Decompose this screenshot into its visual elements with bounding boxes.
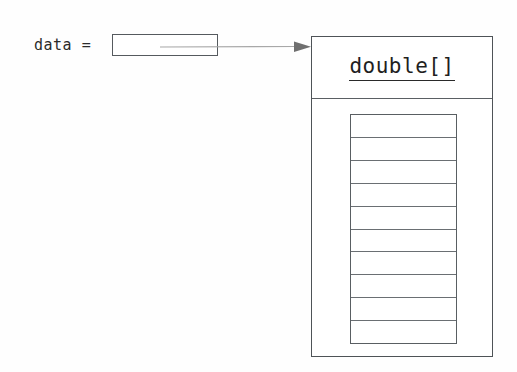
array-cell — [351, 138, 456, 161]
array-cell — [351, 252, 456, 275]
arrow-right-icon — [160, 39, 312, 55]
array-cell — [351, 298, 456, 321]
array-cell — [351, 115, 456, 138]
pointer-line — [160, 47, 296, 48]
diagram-canvas: data = double[] — [0, 0, 517, 372]
array-cell — [351, 184, 456, 207]
array-cell — [351, 275, 456, 298]
object-header: double[] — [312, 37, 492, 99]
array-cell — [351, 230, 456, 253]
pointer-arrowhead — [294, 42, 311, 53]
array-cell — [351, 321, 456, 343]
array-cell — [351, 161, 456, 184]
variable-label: data = — [34, 34, 91, 56]
array-object-box: double[] — [311, 36, 493, 357]
object-body — [312, 99, 492, 356]
array-cell — [351, 207, 456, 230]
array-cell-stack — [350, 114, 457, 344]
object-type-name: double[] — [349, 54, 454, 80]
